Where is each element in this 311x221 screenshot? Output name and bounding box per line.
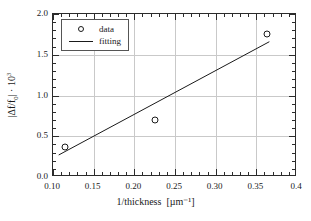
y-tick-label: 2.0 bbox=[26, 8, 48, 18]
x-tick-label: 0.4 bbox=[290, 181, 301, 191]
y-tick-label: 1.5 bbox=[26, 49, 48, 59]
legend-entry-fitting: fitting bbox=[67, 35, 121, 47]
data-point-marker bbox=[62, 143, 69, 150]
x-tick-label: 0.35 bbox=[247, 181, 263, 191]
x-axis-title-unit: [µm⁻¹] bbox=[166, 196, 194, 207]
x-tick-label: 0.10 bbox=[44, 181, 60, 191]
legend-marker-icon bbox=[67, 26, 95, 32]
legend-entry-data: data bbox=[67, 23, 121, 35]
data-point-marker bbox=[151, 116, 158, 123]
y-axis-title: |Δf/f0| · 103 bbox=[5, 35, 19, 155]
legend: data fitting bbox=[61, 19, 129, 51]
y-tick-label: 1.0 bbox=[26, 90, 48, 100]
x-tick-label: 0.25 bbox=[166, 181, 182, 191]
y-axis-title-subscript: 0 bbox=[12, 96, 19, 99]
y-axis-title-mid: | · 10 bbox=[6, 76, 17, 96]
y-tick-label: 0.5 bbox=[26, 130, 48, 140]
x-tick-label: 0.15 bbox=[85, 181, 101, 191]
y-axis-title-prefix: |Δf/f bbox=[6, 100, 17, 118]
y-axis-title-superscript: 3 bbox=[5, 73, 12, 76]
legend-label-data: data bbox=[99, 24, 114, 34]
chart-figure: data fitting 0.100.150.200.250.300.350.4… bbox=[0, 0, 311, 221]
x-axis-title-text: 1/thickness bbox=[116, 196, 161, 207]
x-tick-label: 0.30 bbox=[207, 181, 223, 191]
y-tick-label: 0.0 bbox=[26, 171, 48, 181]
x-tick-label: 0.20 bbox=[125, 181, 141, 191]
plot-area: data fitting bbox=[52, 13, 296, 176]
legend-label-fitting: fitting bbox=[99, 36, 121, 46]
data-point-marker bbox=[263, 31, 270, 38]
x-axis-title: 1/thickness[µm⁻¹] bbox=[0, 196, 311, 207]
legend-line-icon bbox=[67, 41, 95, 42]
